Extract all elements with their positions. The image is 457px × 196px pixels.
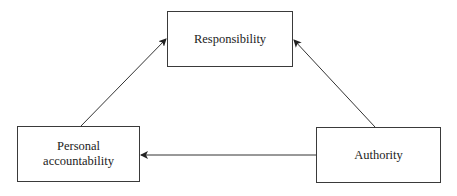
node-personal-accountability: Personal accountability [17,126,140,182]
node-responsibility: Responsibility [167,11,293,67]
arrow-authority-to-responsibility [294,40,375,127]
node-label: Responsibility [194,32,266,47]
arrow-personal-to-responsibility [81,39,166,126]
node-label-line2: accountability [43,154,114,169]
node-label-line1: Personal [57,139,100,154]
node-authority: Authority [316,127,441,183]
node-label: Authority [354,148,403,163]
